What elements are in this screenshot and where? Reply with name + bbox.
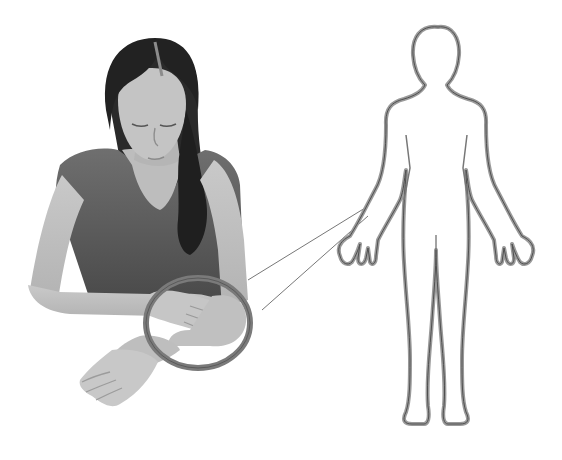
- figure-canvas: [0, 0, 562, 460]
- figure: [0, 0, 562, 460]
- callout-line-upper: [248, 208, 365, 280]
- body-outline-inner: [339, 27, 534, 424]
- body-outline-outer: [339, 27, 534, 424]
- callout-lines: [248, 208, 368, 310]
- person-photo: [28, 38, 248, 406]
- body-outline-diagram: [339, 27, 534, 424]
